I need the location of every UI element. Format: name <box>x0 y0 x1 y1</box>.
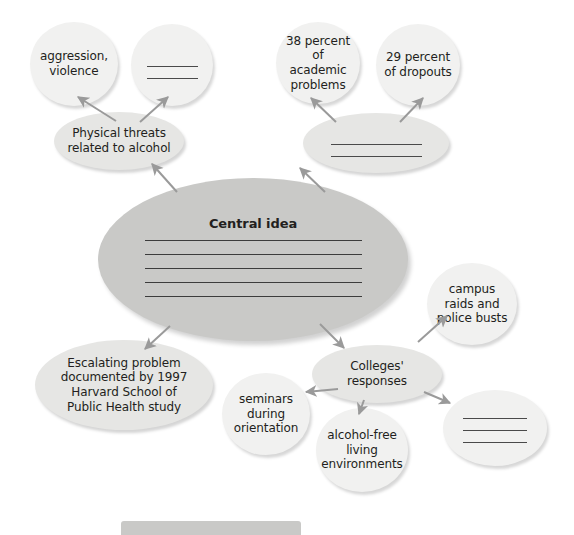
blank-write-on-lines <box>303 144 449 157</box>
node-label: Central idea <box>203 216 303 232</box>
node-label: Physical threats related to alcohol <box>61 126 176 155</box>
node-aggression-violence[interactable]: aggression, violence <box>30 22 118 106</box>
bottom-cropped-bar <box>121 521 301 535</box>
blank-line[interactable] <box>331 156 422 157</box>
node-label: alcohol-free living environments <box>315 428 408 472</box>
node-label: 38 percent of academic problems <box>276 34 360 93</box>
blank-line[interactable] <box>145 296 362 297</box>
node-label: seminars during orientation <box>228 392 305 436</box>
node-alcohol-free-living[interactable]: alcohol-free living environments <box>316 408 408 492</box>
node-label: aggression, violence <box>34 49 114 78</box>
blank-line[interactable] <box>463 430 527 431</box>
blank-line[interactable] <box>145 254 362 255</box>
node-blank-response[interactable] <box>443 390 547 466</box>
node-central-idea[interactable]: Central idea <box>98 178 408 341</box>
blank-line[interactable] <box>145 240 362 241</box>
node-label: Colleges' responses <box>341 359 413 388</box>
node-dropouts[interactable]: 29 percent of dropouts <box>376 24 460 106</box>
node-label: 29 percent of dropouts <box>378 50 457 79</box>
blank-write-on-lines <box>98 240 408 297</box>
node-blank-cause-top-right[interactable] <box>303 113 449 173</box>
arrow-colleges-to-blank-response <box>424 392 450 403</box>
node-campus-raids[interactable]: campus raids and police busts <box>427 263 517 345</box>
blank-line[interactable] <box>147 78 198 79</box>
concept-map-diagram: aggression, violence38 percent of academ… <box>0 0 574 535</box>
blank-line[interactable] <box>331 144 422 145</box>
arrow-central-to-physical-threats <box>152 164 177 192</box>
node-colleges-responses[interactable]: Colleges' responses <box>312 345 442 403</box>
blank-line[interactable] <box>145 268 362 269</box>
blank-write-on-lines <box>131 66 213 79</box>
blank-line[interactable] <box>145 282 362 283</box>
node-blank-effect-top[interactable] <box>131 24 213 106</box>
node-escalating-problem[interactable]: Escalating problem documented by 1997 Ha… <box>35 340 213 430</box>
node-label: Escalating problem documented by 1997 Ha… <box>55 356 194 415</box>
blank-line[interactable] <box>463 442 527 443</box>
blank-write-on-lines <box>443 418 547 443</box>
node-physical-threats[interactable]: Physical threats related to alcohol <box>54 112 184 170</box>
node-seminars-orientation[interactable]: seminars during orientation <box>222 373 310 455</box>
blank-line[interactable] <box>147 66 198 67</box>
blank-line[interactable] <box>463 418 527 419</box>
node-label: campus raids and police busts <box>431 282 514 326</box>
node-academic-problems[interactable]: 38 percent of academic problems <box>276 22 360 104</box>
